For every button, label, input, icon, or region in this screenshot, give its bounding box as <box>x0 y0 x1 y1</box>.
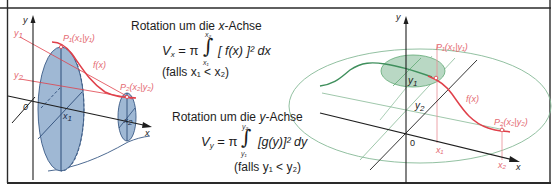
formula-y-integrand: [g(y)]² dy <box>258 136 307 149</box>
left-y1-label: y1 <box>14 29 23 40</box>
right-x2-label: x₂ <box>498 161 506 170</box>
formula-y-title: Rotation um die y-Achse <box>172 111 303 123</box>
formula-x-condition: (falls x₁ < x₂) <box>162 66 229 78</box>
right-origin-label: 0 <box>410 139 415 148</box>
formula-y-lhs: Vy = π <box>201 135 237 150</box>
left-p1-label: P₁(x₁|y₁) <box>63 34 95 43</box>
formula-x-upper-limit: x₂ <box>205 31 211 38</box>
right-y1-label: y1 <box>408 76 417 88</box>
left-p2-label: P₂(x₂|y₂) <box>120 83 154 92</box>
formula-y-condition: (falls y₁ < y₂) <box>234 161 301 173</box>
left-x2-label: x2 <box>124 117 132 127</box>
right-p1-label: P₁(x₁|y₁) <box>436 43 468 52</box>
right-f-label: f(x) <box>466 95 479 104</box>
formula-y-integral-sign: ∫ <box>241 127 251 147</box>
left-x-axis-label: x <box>145 129 150 138</box>
formula-x-lhs: Vx = π <box>162 44 198 59</box>
right-x1-label: x₁ <box>436 146 443 155</box>
formula-x-title: Rotation um die x-Achse <box>131 20 262 32</box>
left-y-axis-label: y <box>23 16 28 25</box>
right-y2-label: y2 <box>415 101 424 113</box>
right-x-axis-label: x <box>516 163 521 172</box>
formula-y-lower-limit: y₁ <box>241 150 247 157</box>
rotation-volume-figure: y x 0 y1 y2 P₁(x₁|y₁) P₂(x₂|y₂) f(x) x1 … <box>0 0 555 194</box>
formula-x-integral-sign: ∫ <box>203 36 213 56</box>
left-f-label: f(x) <box>93 61 106 70</box>
left-origin-label: 0 <box>23 103 28 112</box>
left-y2-label: y2 <box>14 71 23 82</box>
right-diagram <box>289 16 551 183</box>
formula-x-integrand: [ f(x) ]² dx <box>218 45 271 58</box>
right-y-axis-label: y <box>396 13 401 22</box>
right-p2-label: P₂(x₂|y₂) <box>494 118 528 127</box>
left-x1-label: x1 <box>63 112 72 123</box>
formula-y-upper-limit: y₂ <box>242 123 248 130</box>
